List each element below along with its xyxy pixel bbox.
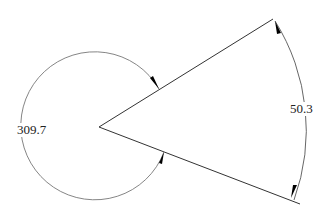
angle-diagram: 50.3 309.7 bbox=[0, 0, 325, 215]
diagram-graphic bbox=[0, 0, 325, 215]
arrow-icon bbox=[275, 21, 281, 34]
interior-angle-label: 50.3 bbox=[289, 102, 314, 116]
upper-ray bbox=[99, 19, 273, 127]
arrow-icon bbox=[150, 76, 159, 89]
arrow-icon bbox=[291, 185, 297, 198]
lower-ray bbox=[99, 127, 300, 204]
reflex-angle-label: 309.7 bbox=[16, 123, 47, 137]
arrow-icon bbox=[159, 152, 164, 164]
